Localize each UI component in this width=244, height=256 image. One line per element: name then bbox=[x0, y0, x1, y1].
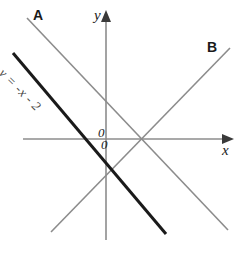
line-b-label: B bbox=[207, 40, 217, 54]
y-axis-arrowhead bbox=[101, 10, 111, 22]
line-a bbox=[27, 18, 228, 230]
line-equation-bold bbox=[13, 53, 166, 234]
line-a-label: A bbox=[33, 8, 43, 22]
coordinate-plane-figure: A B y x 0 0 y = -x - 2 bbox=[0, 0, 244, 256]
origin-label-lower: 0 bbox=[101, 138, 108, 151]
y-axis-label: y bbox=[94, 8, 101, 23]
x-axis-label: x bbox=[222, 143, 229, 158]
